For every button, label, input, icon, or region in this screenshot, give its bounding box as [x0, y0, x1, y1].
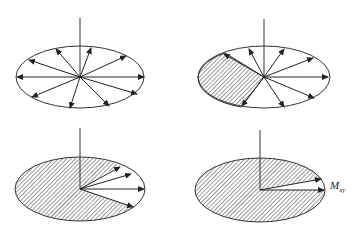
dephasing-diagram: Mxy [0, 0, 357, 235]
panel-1-all-vectors-in-phase [16, 18, 144, 108]
panel-2-partial-dephasing [198, 19, 330, 108]
panel-3-further-dephasing [15, 128, 145, 221]
panel-4-nearly-dephased: Mxy [195, 130, 346, 222]
mxy-label: Mxy [329, 179, 346, 194]
